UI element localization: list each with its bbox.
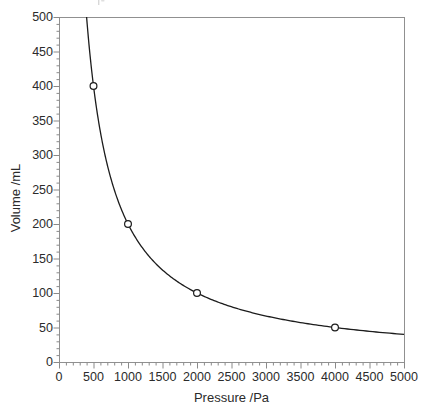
curve-line — [87, 17, 404, 334]
data-point-marker — [332, 324, 339, 331]
x-tick-label: 1500 — [149, 371, 177, 384]
x-axis-title: Pressure /Pa — [59, 390, 404, 405]
x-tick-label: 2500 — [218, 371, 246, 384]
y-tick-label: 350 — [0, 115, 53, 128]
x-tick-label: 4500 — [356, 371, 384, 384]
y-tick-label: 300 — [0, 149, 53, 162]
x-tick-label: 3500 — [287, 371, 315, 384]
x-tick-label: 2000 — [183, 371, 211, 384]
x-tick-label: 4000 — [321, 371, 349, 384]
y-tick-label: 50 — [0, 322, 53, 335]
x-tick-label: 1000 — [114, 371, 142, 384]
data-point-marker — [90, 83, 97, 90]
y-tick-label: 150 — [0, 253, 53, 266]
x-tick-label: 0 — [56, 371, 63, 384]
y-tick-label: 500 — [0, 11, 53, 24]
data-point-marker — [125, 221, 132, 228]
y-tick-label: 400 — [0, 80, 53, 93]
axes-frame — [60, 18, 405, 363]
y-tick-label: 100 — [0, 287, 53, 300]
y-axis-title: Volume /mL — [8, 164, 23, 233]
x-tick-label: 5000 — [390, 371, 418, 384]
y-tick-label: 0 — [0, 356, 53, 369]
plot-area — [0, 0, 421, 416]
data-point-marker — [194, 290, 201, 297]
boyle-law-chart: 0500100015002000250030003500400045005000… — [0, 0, 421, 416]
y-tick-label: 450 — [0, 46, 53, 59]
x-tick-label: 3000 — [252, 371, 280, 384]
x-tick-label: 500 — [83, 371, 104, 384]
